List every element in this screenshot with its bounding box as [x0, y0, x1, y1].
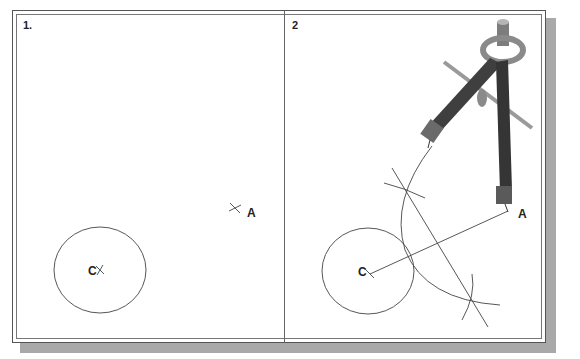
segment-c-to-a [370, 211, 508, 274]
circle-c-panel-2 [322, 228, 414, 314]
point-a-label-panel-2: A [518, 207, 527, 221]
small-arc-top [384, 183, 425, 198]
point-c-marker-icon [96, 265, 104, 275]
point-a-label-panel-1: A [247, 206, 256, 220]
point-c-marker-icon-2 [366, 270, 374, 278]
panel-2-construction [322, 146, 508, 327]
panel-1-construction [54, 203, 241, 313]
large-arc [401, 146, 500, 305]
point-c-label-panel-1: C [88, 264, 97, 278]
point-c-label-panel-2: C [358, 265, 367, 279]
geometry-drawing: C A C A [0, 0, 580, 359]
point-a-marker-icon [229, 203, 241, 213]
small-arc-bottom [462, 274, 473, 320]
compass-icon [420, 19, 532, 212]
